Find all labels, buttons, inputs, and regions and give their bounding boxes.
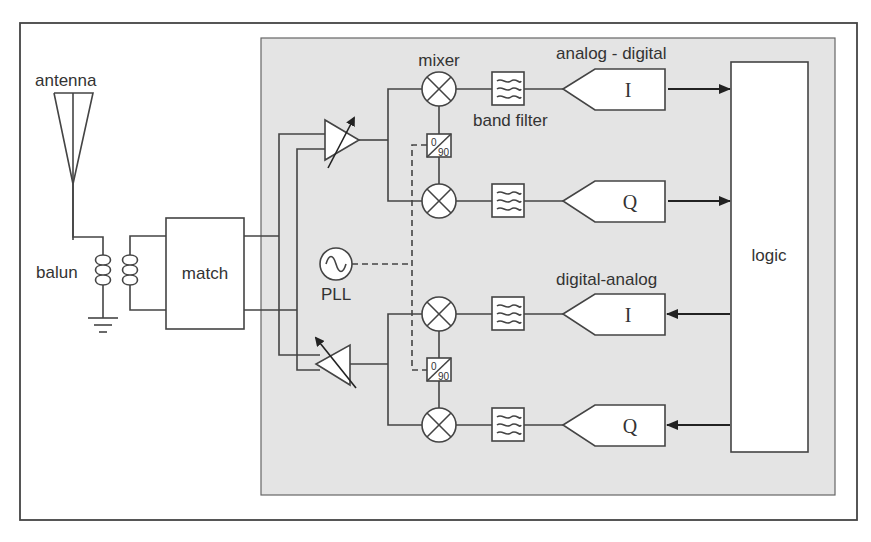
svg-text:90: 90 <box>438 371 450 382</box>
svg-text:0: 0 <box>431 137 437 148</box>
svg-text:I: I <box>625 304 632 326</box>
svg-text:90: 90 <box>438 147 450 158</box>
mixer-tx-i-icon <box>422 297 456 331</box>
phase-shifter-tx-icon: 0 90 <box>427 358 451 382</box>
svg-text:Q: Q <box>623 191 638 213</box>
phase-shifter-rx-icon: 0 90 <box>427 134 451 158</box>
antenna-label: antenna <box>35 71 97 90</box>
mixer-label: mixer <box>418 51 460 70</box>
logic-label: logic <box>752 246 787 265</box>
mixer-rx-q-icon <box>422 184 456 218</box>
dac-group-label: digital-analog <box>556 270 657 289</box>
band-filter-label: band filter <box>473 111 548 130</box>
balun-label: balun <box>36 263 78 282</box>
mixer-tx-q-icon <box>422 408 456 442</box>
pll-oscillator-icon <box>320 248 352 280</box>
svg-text:Q: Q <box>623 415 638 437</box>
svg-text:I: I <box>625 79 632 101</box>
transceiver-diagram: antenna balun match <box>0 0 871 542</box>
match-label: match <box>182 264 228 283</box>
adc-group-label: analog - digital <box>556 44 667 63</box>
svg-text:0: 0 <box>431 361 437 372</box>
mixer-rx-i-icon <box>422 72 456 106</box>
pll-label: PLL <box>321 285 351 304</box>
